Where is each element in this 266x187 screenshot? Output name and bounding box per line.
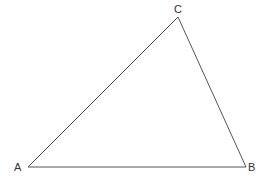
vertex-label-c: C: [174, 3, 182, 15]
vertex-label-a: A: [14, 161, 22, 173]
diagram-canvas: A B C: [0, 0, 266, 187]
triangle-abc: [28, 17, 246, 167]
vertex-label-b: B: [248, 161, 255, 173]
triangle-diagram: A B C: [0, 0, 266, 187]
